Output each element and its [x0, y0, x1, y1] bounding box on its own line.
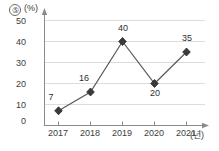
data-point-label: 16 — [69, 73, 99, 83]
data-point-label: 35 — [172, 33, 202, 43]
chart-figure: ⑤ (%) (년) 50 40 30 20 10 0 2017 2018 201… — [0, 0, 219, 151]
data-point-label: 7 — [36, 92, 66, 102]
y-axis — [42, 8, 47, 126]
data-point-label: 20 — [140, 88, 170, 98]
x-axis — [44, 122, 209, 129]
data-point-label: 40 — [108, 23, 138, 33]
